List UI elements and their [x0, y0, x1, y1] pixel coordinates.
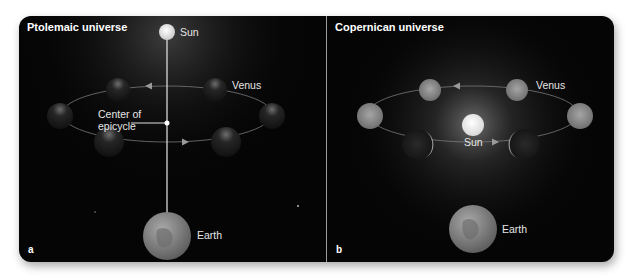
- sun-label: Sun: [464, 136, 483, 148]
- panel-letter: b: [336, 244, 342, 255]
- panel-ptolemaic: Ptolemaic universe Sun Venus Center of e…: [19, 16, 326, 262]
- sun-icon: [462, 114, 484, 136]
- ptolemaic-diagram: [19, 16, 326, 262]
- sun-label: Sun: [180, 26, 199, 38]
- figure-frame: Ptolemaic universe Sun Venus Center of e…: [19, 16, 614, 262]
- panel-title: Ptolemaic universe: [27, 21, 127, 33]
- center-label-line2: epicycle: [98, 120, 136, 132]
- earth-label: Earth: [502, 223, 527, 235]
- venus-label: Venus: [232, 79, 261, 91]
- earth-label: Earth: [197, 229, 222, 241]
- epicycle-center-dot: [165, 121, 170, 126]
- panel-copernican: Copernican universe Sun Venus Earth b: [327, 16, 614, 262]
- panel-title: Copernican universe: [335, 21, 444, 33]
- venus-label: Venus: [536, 79, 565, 91]
- center-label-line1: Center of: [98, 108, 141, 120]
- sun-icon: [159, 24, 175, 40]
- panel-letter: a: [28, 244, 34, 255]
